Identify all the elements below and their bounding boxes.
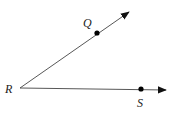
label-s: S (137, 96, 143, 110)
ray-rs (20, 88, 166, 90)
point-q (94, 30, 99, 35)
ray-rq (20, 12, 129, 88)
angle-diagram: R Q S (0, 0, 179, 114)
label-r: R (4, 82, 13, 96)
point-s (138, 86, 143, 91)
label-q: Q (83, 16, 92, 30)
angle-svg: R Q S (0, 0, 179, 114)
